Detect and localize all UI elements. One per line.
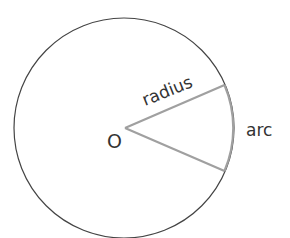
radius-line-lower — [125, 128, 225, 171]
arc-highlight — [225, 85, 234, 171]
center-label: O — [107, 130, 122, 152]
arc-label: arc — [246, 120, 272, 140]
radius-label: radius — [139, 71, 195, 109]
circle-outline — [14, 18, 234, 238]
circle-sector-diagram: radius arc O — [0, 0, 290, 238]
